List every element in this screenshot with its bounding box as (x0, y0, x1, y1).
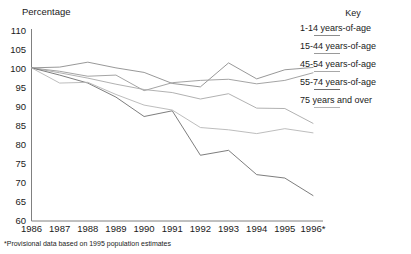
chart-legend: Key 1-14 years-of-age15-44 years-of-age4… (300, 8, 411, 112)
legend-swatch-icon (314, 89, 340, 90)
legend-entry-label: 55-74 years-of-age (300, 76, 411, 88)
legend-swatch-icon (314, 35, 340, 36)
legend-entry-label: 15-44 years-of-age (300, 40, 411, 52)
legend-title: Key (300, 8, 406, 18)
legend-entry-list: 1-14 years-of-age15-44 years-of-age45-54… (300, 22, 411, 108)
chart-footnote: *Provisional data based on 1995 populati… (4, 240, 171, 247)
chart-page: Percentage 1101051009590858075706560 198… (0, 0, 411, 254)
legend-entry: 1-14 years-of-age (300, 22, 411, 36)
series-line-0 (32, 62, 314, 87)
legend-entry-label: 45-54 years-of-age (300, 58, 411, 70)
series-line-3 (32, 68, 314, 196)
legend-swatch-icon (314, 71, 340, 72)
legend-entry-label: 75 years and over (300, 94, 411, 106)
legend-entry: 45-54 years-of-age (300, 58, 411, 72)
legend-entry: 55-74 years-of-age (300, 76, 411, 90)
series-line-4 (32, 68, 314, 134)
legend-swatch-icon (314, 107, 340, 108)
legend-swatch-icon (314, 53, 340, 54)
legend-entry: 75 years and over (300, 94, 411, 108)
series-line-2 (32, 68, 314, 123)
legend-entry-label: 1-14 years-of-age (300, 22, 411, 34)
legend-entry: 15-44 years-of-age (300, 40, 411, 54)
